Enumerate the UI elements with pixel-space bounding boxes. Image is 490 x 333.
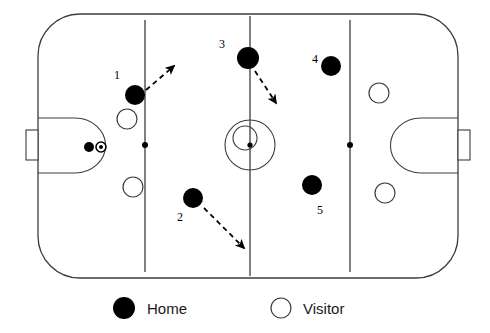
legend-visitor-marker <box>271 298 291 318</box>
visitor-player-marker[interactable] <box>123 177 143 197</box>
right-net <box>458 130 470 160</box>
left-net <box>26 130 38 160</box>
home-player-4-marker[interactable] <box>321 56 341 76</box>
home-player-1-marker[interactable] <box>125 85 145 105</box>
center-faceoff-dot <box>247 142 252 147</box>
legend-home-marker <box>113 297 135 319</box>
visitor-player-marker[interactable] <box>375 183 395 203</box>
player-label-5: 5 <box>317 203 323 217</box>
player-label-1: 1 <box>114 68 120 82</box>
legend-group: Home Visitor <box>113 297 344 319</box>
rink-diagram-stage: 1 2 3 4 5 Home Visitor <box>0 0 490 333</box>
faceoff-dot-left <box>142 142 148 148</box>
visitor-player-marker[interactable] <box>117 109 137 129</box>
legend-home-label: Home <box>147 300 187 317</box>
puck-center-dot <box>99 145 103 149</box>
home-player-5-marker[interactable] <box>302 175 322 195</box>
player-label-3: 3 <box>219 37 225 51</box>
legend-visitor-label: Visitor <box>303 300 344 317</box>
home-player-2-marker[interactable] <box>183 188 203 208</box>
home-player-3-marker[interactable] <box>237 47 259 69</box>
player-label-2: 2 <box>177 210 183 224</box>
player-label-4: 4 <box>312 52 318 66</box>
faceoff-dot-right <box>347 142 353 148</box>
home-goalie-marker[interactable] <box>84 142 94 152</box>
visitor-player-marker[interactable] <box>369 83 389 103</box>
hockey-rink-diagram: 1 2 3 4 5 Home Visitor <box>0 0 490 333</box>
